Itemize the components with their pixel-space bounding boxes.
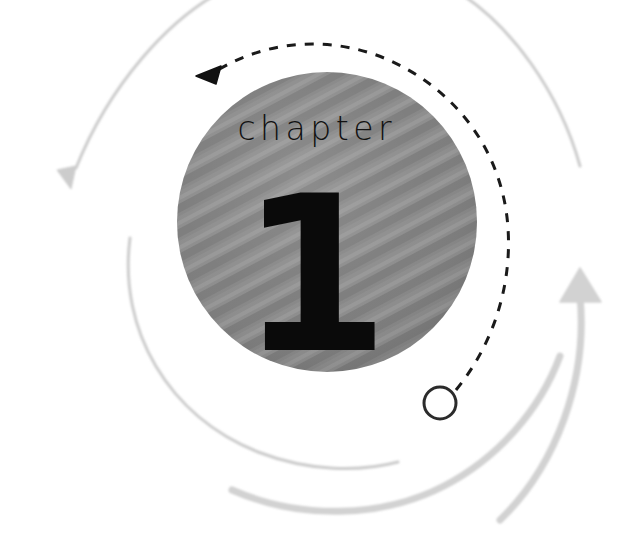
chapter-opener-artwork (0, 0, 629, 539)
chapter-opener-page: chapter 1 (0, 0, 629, 539)
chapter-disc (177, 72, 477, 372)
open-circle-marker (424, 387, 456, 419)
